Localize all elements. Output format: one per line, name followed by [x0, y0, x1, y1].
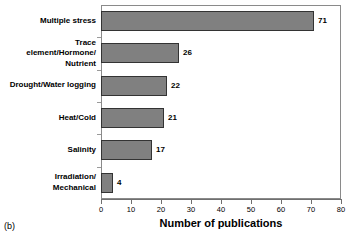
category-label: Drought/Water logging: [0, 80, 96, 91]
bar: [101, 108, 164, 128]
bar-value-label: 21: [168, 113, 177, 123]
x-axis-tick: [281, 200, 282, 204]
y-axis-tick: [97, 37, 101, 38]
y-axis-tick: [97, 102, 101, 103]
panel-label: (b): [4, 221, 15, 231]
x-axis-tick: [341, 200, 342, 204]
figure-panel-b: 71262221174 Multiple stressTrace element…: [0, 0, 352, 238]
bar-value-label: 71: [318, 16, 327, 26]
bar-row: 4: [101, 167, 341, 199]
x-axis-tick-label: 0: [99, 205, 103, 214]
x-axis-tick: [311, 200, 312, 204]
y-axis-tick: [97, 70, 101, 71]
x-axis-tick: [131, 200, 132, 204]
x-axis-tick-label: 20: [157, 205, 165, 214]
category-label: Heat/Cold: [0, 113, 96, 124]
x-axis-tick: [101, 200, 102, 204]
x-axis-tick: [251, 200, 252, 204]
bar-value-label: 26: [183, 48, 192, 58]
category-label: Salinity: [0, 145, 96, 156]
bar-value-label: 4: [117, 178, 121, 188]
x-axis-tick-label: 60: [277, 205, 285, 214]
bar-row: 17: [101, 134, 341, 166]
bar-row: 22: [101, 70, 341, 102]
x-axis-tick: [221, 200, 222, 204]
x-axis-tick: [161, 200, 162, 204]
bar-value-label: 22: [171, 81, 180, 91]
bar: [101, 76, 167, 96]
x-axis-tick-label: 10: [127, 205, 135, 214]
x-axis-tick: [191, 200, 192, 204]
x-axis-tick-label: 50: [247, 205, 255, 214]
x-axis-tick-label: 40: [217, 205, 225, 214]
x-axis-tick-label: 70: [307, 205, 315, 214]
bar: [101, 173, 113, 193]
bar: [101, 43, 179, 63]
bar-row: 71: [101, 5, 341, 37]
category-label: Multiple stress: [0, 16, 96, 27]
bar-row: 26: [101, 37, 341, 69]
category-label: Trace element/Hormone/ Nutrient: [0, 38, 96, 70]
x-axis-tick-label: 30: [187, 205, 195, 214]
y-axis-tick: [97, 134, 101, 135]
bar-value-label: 17: [156, 145, 165, 155]
x-axis-title: Number of publications: [101, 217, 341, 229]
category-label: Irradiation/ Mechanical: [0, 172, 96, 193]
bar: [101, 11, 314, 31]
x-axis-tick-label: 80: [337, 205, 345, 214]
y-axis-tick: [97, 167, 101, 168]
bar: [101, 140, 152, 160]
bar-row: 21: [101, 102, 341, 134]
